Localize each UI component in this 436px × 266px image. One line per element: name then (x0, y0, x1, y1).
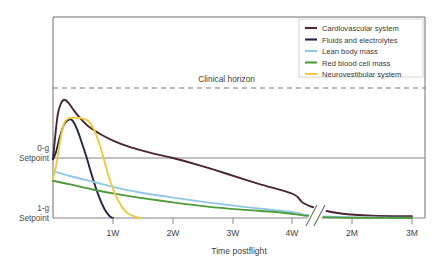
x-axis-title: Time postflight (211, 246, 267, 256)
legend-label: Fluids and electrolytes (322, 36, 398, 45)
line-chart: 1W 2W 3W 4W 2M 3M Time postflight 0-g Se… (0, 0, 436, 266)
x-tick-label: 2W (167, 228, 181, 238)
x-tick-label: 3M (406, 228, 418, 238)
x-tick-label: 4W (286, 228, 300, 238)
setpoint-0g-label-line2: Setpoint (19, 154, 50, 163)
clinical-horizon-label: Clinical horizon (198, 74, 255, 84)
legend-label: Lean body mass (322, 47, 378, 56)
x-tick-label: 2M (346, 228, 358, 238)
chart-figure: 1W 2W 3W 4W 2M 3M Time postflight 0-g Se… (0, 0, 436, 266)
setpoint-0g-label-line1: 0-g (37, 144, 49, 153)
x-tick-label: 1W (107, 228, 121, 238)
chart-legend: Cardiovascular system Fluids and electro… (299, 19, 423, 79)
x-tick-label: 3W (227, 228, 241, 238)
setpoint-1g-label-line2: Setpoint (19, 214, 50, 223)
legend-label: Red blood cell mass (322, 59, 391, 68)
legend-label: Neurovestibular system (322, 70, 401, 79)
setpoint-1g-label-line1: 1-g (37, 204, 49, 213)
legend-label: Cardiovascular system (322, 24, 399, 33)
